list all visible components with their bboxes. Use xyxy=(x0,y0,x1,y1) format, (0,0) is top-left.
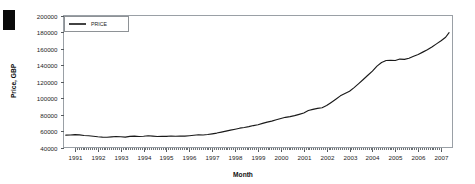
x-axis-title: Month xyxy=(233,171,253,178)
x-tick-label: 1997 xyxy=(206,154,220,161)
x-tick-label: 1999 xyxy=(252,154,266,161)
price-chart: 4000060000800001000001200001400001600001… xyxy=(0,0,475,184)
x-tick-label: 2003 xyxy=(344,154,358,161)
y-tick-label: 160000 xyxy=(37,46,58,53)
legend[interactable]: PRICE xyxy=(65,17,129,32)
x-axis-minor-ticks xyxy=(76,148,442,150)
y-tick-label: 200000 xyxy=(37,13,58,20)
x-tick-label: 2000 xyxy=(275,154,289,161)
series-group xyxy=(66,33,449,138)
y-tick-label: 120000 xyxy=(37,79,58,86)
x-tick-label: 1991 xyxy=(69,154,83,161)
x-tick-label: 1996 xyxy=(183,154,197,161)
y-tick-label: 40000 xyxy=(40,145,58,152)
x-tick-label: 1993 xyxy=(115,154,129,161)
series-line-price xyxy=(66,33,449,138)
y-axis-title: Price, GBP xyxy=(10,63,18,98)
y-tick-label: 80000 xyxy=(40,112,58,119)
y-tick-label: 100000 xyxy=(37,95,58,102)
y-tick-label: 60000 xyxy=(40,128,58,135)
x-tick-label: 1994 xyxy=(138,154,152,161)
x-tick-label: 2001 xyxy=(298,154,312,161)
corner-marker-artifact xyxy=(3,10,15,30)
legend-label-price: PRICE xyxy=(91,21,107,27)
x-tick-label: 2005 xyxy=(389,154,403,161)
x-tick-label: 2004 xyxy=(366,154,380,161)
x-tick-label: 2002 xyxy=(321,154,335,161)
y-axis: 4000060000800001000001200001400001600001… xyxy=(37,13,64,152)
x-tick-label: 2006 xyxy=(412,154,426,161)
y-tick-label: 140000 xyxy=(37,62,58,69)
chart-canvas: 4000060000800001000001200001400001600001… xyxy=(0,0,475,184)
x-tick-label: 2007 xyxy=(435,154,449,161)
x-tick-label: 1998 xyxy=(229,154,243,161)
x-tick-label: 1995 xyxy=(160,154,174,161)
y-tick-label: 180000 xyxy=(37,29,58,36)
plot-frame xyxy=(64,16,453,148)
x-tick-label: 1992 xyxy=(92,154,106,161)
